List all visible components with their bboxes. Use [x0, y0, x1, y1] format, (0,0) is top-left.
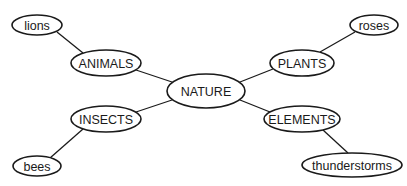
- node-label: thunderstorms: [312, 159, 392, 173]
- node-lions: lions: [12, 15, 62, 35]
- mind-map-canvas: NATUREANIMALSPLANTSINSECTSELEMENTSlionsr…: [0, 0, 407, 186]
- node-insects: INSECTS: [71, 106, 141, 132]
- node-label: INSECTS: [79, 113, 133, 127]
- node-label: PLANTS: [278, 57, 327, 71]
- edge-insects-bees: [50, 129, 83, 158]
- edge-nature-animals: [136, 70, 172, 82]
- edge-nature-insects: [136, 100, 172, 112]
- node-roses: roses: [350, 15, 398, 35]
- node-nature: NATURE: [167, 74, 245, 108]
- node-label: roses: [359, 19, 390, 33]
- edge-nature-elements: [240, 100, 270, 112]
- node-bees: bees: [13, 156, 61, 176]
- edge-nature-plants: [240, 69, 273, 82]
- node-thunderstorms: thunderstorms: [302, 153, 402, 177]
- node-animals: ANIMALS: [71, 50, 141, 76]
- node-label: ANIMALS: [79, 57, 134, 71]
- node-label: bees: [23, 160, 50, 174]
- edge-elements-thunderstorms: [323, 130, 348, 153]
- node-label: ELEMENTS: [268, 113, 335, 127]
- node-label: lions: [24, 19, 50, 33]
- node-plants: PLANTS: [270, 50, 334, 76]
- edge-plants-roses: [320, 32, 355, 52]
- node-label: NATURE: [181, 85, 231, 99]
- node-elements: ELEMENTS: [264, 106, 340, 132]
- edge-animals-lions: [57, 32, 83, 53]
